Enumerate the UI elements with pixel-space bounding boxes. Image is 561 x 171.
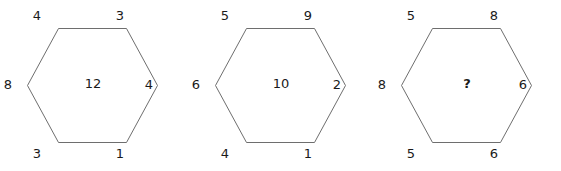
hexagon-figure-1: 4 3 8 4 3 1 12 [0,0,187,171]
hexagon-1-corner-right: 4 [138,78,160,91]
hexagon-2-corner-top-right: 9 [297,9,319,22]
hexagon-1-center-value: 12 [52,77,134,90]
hexagon-1-corner-bottom-right: 1 [109,147,131,160]
hexagon-3-corner-top-left: 5 [400,9,422,22]
hexagon-3-corner-top-right: 8 [483,9,505,22]
hexagon-2-corner-bottom-right: 1 [297,147,319,160]
hexagon-2-corner-left: 6 [185,78,207,91]
hexagon-1-corner-left: 8 [0,78,19,91]
hexagon-1-corner-top-right: 3 [109,9,131,22]
hexagon-figure-3: 5 8 8 6 5 6 ? [374,0,561,171]
hexagon-3-corner-right: 6 [512,78,534,91]
hexagon-2-corner-right: 2 [326,78,348,91]
hexagon-1-corner-top-left: 4 [26,9,48,22]
hexagon-2-corner-top-left: 5 [214,9,236,22]
hexagon-3-corner-left: 8 [371,78,393,91]
hexagon-figure-2: 5 9 6 2 4 1 10 [188,0,375,171]
hexagon-3-center-unknown-marker: ? [426,77,508,90]
hexagon-3-corner-bottom-left: 5 [400,147,422,160]
hexagon-2-center-value: 10 [240,77,322,90]
hexagon-1-corner-bottom-left: 3 [26,147,48,160]
hexagon-puzzle-canvas: 4 3 8 4 3 1 12 5 9 6 2 4 1 10 5 8 8 6 5 … [0,0,561,171]
hexagon-2-corner-bottom-left: 4 [214,147,236,160]
hexagon-3-corner-bottom-right: 6 [483,147,505,160]
